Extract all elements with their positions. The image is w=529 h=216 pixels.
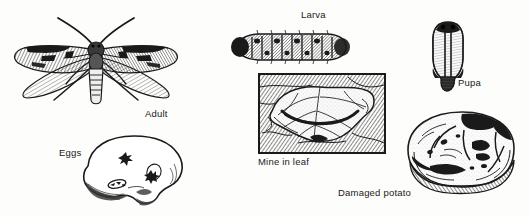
label-larva: Larva	[301, 10, 326, 20]
larva-tail	[334, 38, 350, 56]
life-cycle-figure: Adult	[0, 0, 529, 216]
label-adult: Adult	[145, 109, 168, 119]
moth-body	[88, 42, 104, 104]
moth-antennae	[58, 18, 134, 44]
adult-moth-illustration	[8, 14, 183, 114]
label-mine-in-leaf: Mine in leaf	[258, 157, 309, 167]
label-pupa: Pupa	[458, 78, 481, 88]
larva-illustration	[228, 30, 354, 64]
larva-head	[231, 37, 249, 57]
eggs-potato-illustration	[66, 128, 192, 212]
label-damaged-potato: Damaged potato	[338, 188, 411, 198]
label-eggs: Eggs	[59, 148, 81, 158]
damaged-potato-illustration	[400, 106, 522, 196]
mine-in-leaf-panel	[258, 73, 386, 154]
